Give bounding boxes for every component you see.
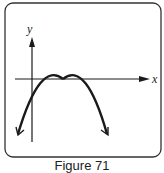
y-axis-label: y: [26, 22, 33, 36]
parabola-curve: [18, 75, 107, 134]
x-axis-arrow-icon: [139, 76, 150, 82]
figure-caption: Figure 71: [0, 158, 164, 173]
figure-diagram: y x: [0, 0, 164, 173]
x-axis-label: x: [151, 72, 158, 86]
y-axis-arrow-icon: [29, 37, 35, 47]
